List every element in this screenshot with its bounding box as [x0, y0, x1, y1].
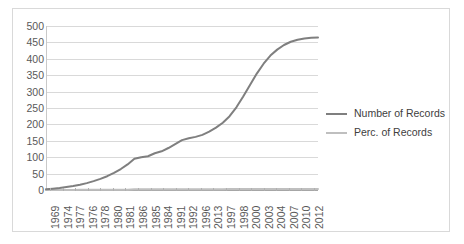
x-axis-tick-label: 1976	[88, 206, 98, 229]
x-axis-tick	[289, 188, 290, 191]
plot-area	[46, 26, 318, 190]
x-axis-tick	[314, 188, 315, 191]
legend-color-swatch	[326, 132, 347, 134]
x-axis-tick-label: 2004	[276, 206, 286, 229]
x-axis-tick	[63, 188, 64, 191]
x-axis-tick-label: 1985	[151, 206, 161, 229]
x-axis-tick	[125, 188, 126, 191]
y-axis-tick-label: 100	[14, 152, 44, 162]
series-line-number-of-records	[46, 37, 318, 189]
x-axis-tick-label: 1969	[50, 206, 60, 229]
y-axis-tick-label: 250	[14, 103, 44, 113]
x-axis-tick-label: 2010	[301, 206, 311, 229]
y-axis-tick-label: 450	[14, 37, 44, 47]
x-axis-tick-label: 1998	[239, 206, 249, 229]
x-axis-tick	[176, 188, 177, 191]
y-axis-tick-label: 150	[14, 136, 44, 146]
x-axis-tick	[88, 188, 89, 191]
x-axis-tick-label: 1997	[226, 206, 236, 229]
x-axis-tick	[213, 188, 214, 191]
y-axis-tick-label: 200	[14, 119, 44, 129]
x-axis-tick	[75, 188, 76, 191]
x-axis-tick-label: 1992	[188, 206, 198, 229]
x-axis-tick	[163, 188, 164, 191]
x-axis-tick	[100, 188, 101, 191]
x-axis-tick	[113, 188, 114, 191]
x-axis-tick-label: 1977	[75, 206, 85, 229]
x-axis-tick	[301, 188, 302, 191]
x-axis-tick-label: 1980	[113, 206, 123, 229]
x-axis-tick-label: 2013	[213, 206, 223, 229]
legend-label: Perc. of Records	[354, 127, 432, 138]
x-axis-tick	[264, 188, 265, 191]
x-axis-tick	[201, 188, 202, 191]
y-axis-labels: 500450400350300250200150100500	[14, 26, 44, 190]
x-axis-tick	[251, 188, 252, 191]
x-axis-tick-label: 1991	[176, 206, 186, 229]
x-axis-tick-label: 2012	[314, 206, 324, 229]
series-layer	[46, 26, 318, 190]
legend-color-swatch	[326, 113, 347, 115]
y-axis-tick-label: 400	[14, 54, 44, 64]
y-axis-tick-label: 350	[14, 70, 44, 80]
x-axis-tick-label: 2007	[289, 206, 299, 229]
x-axis-tick	[151, 188, 152, 191]
x-axis-tick-label: 1981	[125, 206, 135, 229]
x-axis-tick-label: 2000	[251, 206, 261, 229]
x-axis-tick-label: 2003	[264, 206, 274, 229]
legend-item[interactable]: Perc. of Records	[326, 123, 446, 142]
x-axis-tick-label: 1996	[201, 206, 211, 229]
x-axis-tick	[188, 188, 189, 191]
y-axis-tick-label: 0	[14, 185, 44, 195]
x-axis-tick	[138, 188, 139, 191]
x-axis-tick-label: 1974	[63, 206, 73, 229]
x-axis-tick	[276, 188, 277, 191]
chart-legend: Number of RecordsPerc. of Records	[326, 104, 446, 142]
x-axis-tick	[239, 188, 240, 191]
x-axis-tick	[226, 188, 227, 191]
y-axis-tick-label: 50	[14, 169, 44, 179]
x-axis-tick	[50, 188, 51, 191]
y-axis-tick-label: 300	[14, 87, 44, 97]
legend-label: Number of Records	[354, 108, 445, 119]
x-axis-tick-label: 1984	[163, 206, 173, 229]
x-axis-tick-label: 1978	[100, 206, 110, 229]
x-axis-tick-label: 1986	[138, 206, 148, 229]
chart-container: 500450400350300250200150100500 196919741…	[0, 0, 464, 244]
y-axis-tick-label: 500	[14, 21, 44, 31]
x-axis-labels: 1969197419771976197819801981198619851984…	[46, 191, 318, 235]
legend-item[interactable]: Number of Records	[326, 104, 446, 123]
